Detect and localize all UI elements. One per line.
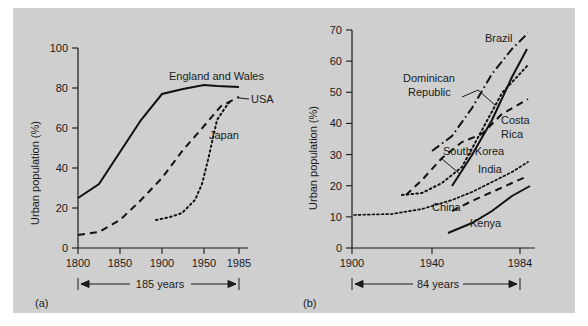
- panel-b-ylabel: Urban population (%): [307, 106, 319, 210]
- panel-b-xtick-1900: 1900: [340, 257, 364, 269]
- panel-a-ytick-60: 60: [56, 122, 68, 134]
- panel-b-xtick-1940: 1940: [420, 257, 444, 269]
- series-japan: [156, 100, 231, 220]
- panel-b-svg: Urban population (%) 0 10: [295, 8, 575, 313]
- panel-b-ytick-10: 10: [330, 211, 342, 223]
- panel-a-span-label: 185 years: [136, 278, 185, 290]
- panel-a-xtick-1900: 1900: [150, 257, 174, 269]
- panel-a-x-tick-labels: 1800 1850 1900 1950 1985: [66, 257, 251, 269]
- series-label-india: India: [478, 163, 503, 175]
- panel-b-y-tick-labels: 0 10 20 30 40 50 60 70: [330, 24, 342, 254]
- panel-b-ytick-30: 30: [330, 149, 342, 161]
- series-label-japan: Japan: [209, 129, 239, 141]
- leader-south-korea: [442, 159, 460, 174]
- series-label-china: China: [432, 201, 462, 213]
- panel-b-x-ticks: [352, 248, 520, 254]
- panel-b-xtick-1984: 1984: [508, 257, 532, 269]
- panel-b-ytick-0: 0: [336, 242, 342, 254]
- panel-a-span-annotation: 185 years: [78, 278, 239, 290]
- panel-b-ytick-60: 60: [330, 55, 342, 67]
- panel-b-ytick-70: 70: [330, 24, 342, 36]
- panel-b: Urban population (%) 0 10: [295, 8, 575, 313]
- panel-b-ytick-40: 40: [330, 117, 342, 129]
- panel-b-ytick-20: 20: [330, 180, 342, 192]
- figure-plate: Urban population (%) 0 20 40 60: [13, 8, 575, 313]
- panel-a-y-ticks: [72, 48, 78, 248]
- figure-root: Urban population (%) 0 20 40 60: [0, 0, 588, 326]
- series-label-england: England and Wales: [169, 70, 264, 82]
- panel-b-x-tick-labels: 1900 1940 1984: [340, 257, 532, 269]
- panel-a-ytick-40: 40: [56, 162, 68, 174]
- series-usa: [78, 97, 239, 235]
- leader-usa: [239, 98, 249, 99]
- panel-b-y-ticks: [346, 30, 352, 248]
- series-label-costa-rica-line2: Rica: [501, 128, 524, 140]
- panel-a-xtick-1950: 1950: [192, 257, 216, 269]
- series-label-kenya: Kenya: [470, 217, 502, 229]
- series-label-dominican-republic-line1: Dominican: [403, 72, 455, 84]
- panel-a-ytick-100: 100: [50, 42, 68, 54]
- panel-a: Urban population (%) 0 20 40 60: [13, 8, 295, 313]
- series-label-costa-rica-line1: Costa: [501, 114, 531, 126]
- panel-a-y-tick-labels: 0 20 40 60 80 100: [50, 42, 68, 254]
- series-label-usa: USA: [251, 93, 274, 105]
- panel-a-ytick-80: 80: [56, 82, 68, 94]
- panel-a-label: (a): [35, 297, 48, 309]
- panel-b-label: (b): [303, 297, 316, 309]
- panel-a-xtick-1985: 1985: [227, 257, 251, 269]
- series-label-south-korea: South Korea: [443, 145, 505, 157]
- panel-a-ylabel: Urban population (%): [29, 121, 41, 225]
- panel-b-ytick-50: 50: [330, 86, 342, 98]
- series-label-brazil: Brazil: [485, 32, 513, 44]
- panel-b-span-annotation: 84 years: [352, 278, 520, 290]
- panel-a-svg: Urban population (%) 0 20 40 60: [13, 8, 295, 313]
- panel-a-ytick-0: 0: [62, 242, 68, 254]
- series-label-dominican-republic-line2: Republic: [408, 86, 451, 98]
- panel-a-xtick-1850: 1850: [108, 257, 132, 269]
- panel-a-xtick-1800: 1800: [66, 257, 90, 269]
- panel-a-x-ticks: [78, 248, 239, 254]
- panel-b-span-label: 84 years: [417, 278, 460, 290]
- panel-a-ytick-20: 20: [56, 202, 68, 214]
